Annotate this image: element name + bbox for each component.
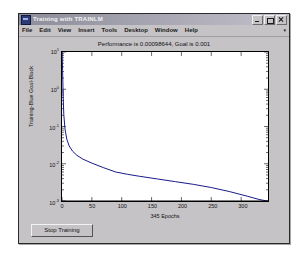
menu-item-view[interactable]: View <box>58 27 72 34</box>
x-tick-label: 250 <box>208 203 217 209</box>
y-tick-label: 10-3 <box>49 200 59 206</box>
y-tick-label: 101 <box>51 49 59 55</box>
x-tick-label: 50 <box>89 203 95 209</box>
stop-training-button[interactable]: Stop Training <box>31 224 93 237</box>
x-axis-label: 345 Epochs <box>61 213 269 219</box>
window-title: Training with TRAINLM <box>33 16 252 23</box>
menu-bar: File Edit View Insert Tools Desktop Wind… <box>19 25 289 37</box>
title-bar[interactable]: Training with TRAINLM <box>19 14 289 25</box>
y-axis-label: Training-Blue Goal-Black <box>28 66 34 127</box>
y-tick-label: 10-2 <box>49 162 59 168</box>
matlab-figure-icon <box>21 15 31 25</box>
figure-client-area: Performance is 0.00098644, Goal is 0.001… <box>19 37 289 243</box>
x-tick-label: 150 <box>148 203 157 209</box>
performance-plot: Performance is 0.00098644, Goal is 0.001… <box>21 38 287 241</box>
menu-item-desktop[interactable]: Desktop <box>124 27 148 34</box>
menu-item-file[interactable]: File <box>22 27 32 34</box>
figure-window: Training with TRAINLM File Edit View Ins… <box>18 13 290 244</box>
y-tick-label: 10-1 <box>49 125 59 131</box>
minimize-icon[interactable] <box>252 15 263 25</box>
x-tick-label: 200 <box>178 203 187 209</box>
x-tick-label: 0 <box>60 203 63 209</box>
x-tick-label: 300 <box>238 203 247 209</box>
screenshot-root: Training with TRAINLM File Edit View Ins… <box>0 0 306 255</box>
close-icon[interactable] <box>276 15 287 25</box>
plot-axes: 10110010-110-210-3050100150200250300 <box>61 51 269 202</box>
maximize-icon[interactable] <box>264 15 275 25</box>
y-tick-label: 100 <box>51 87 59 93</box>
menu-item-tools[interactable]: Tools <box>102 27 118 34</box>
menu-item-insert[interactable]: Insert <box>78 27 94 34</box>
chevron-down-icon[interactable]: ▾ <box>283 28 286 33</box>
menu-item-window[interactable]: Window <box>155 27 178 34</box>
menu-item-edit[interactable]: Edit <box>39 27 50 34</box>
x-tick-label: 100 <box>118 203 127 209</box>
menu-item-help[interactable]: Help <box>185 27 198 34</box>
window-buttons <box>252 15 288 25</box>
plot-canvas <box>62 52 268 201</box>
plot-title: Performance is 0.00098644, Goal is 0.001 <box>21 41 287 48</box>
